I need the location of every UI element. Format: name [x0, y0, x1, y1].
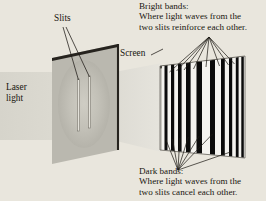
screen-leader-line [151, 49, 163, 55]
double-slit-diagram: Slits Screen Laser light Bright bands: W… [0, 0, 266, 201]
bright-bands-caption: Bright bands: Where light waves from the… [139, 1, 247, 32]
slit-plate [52, 44, 118, 164]
interference-fringes [162, 56, 245, 158]
laser-light-label: Laser light [6, 82, 27, 104]
screen-label: Screen [120, 48, 145, 58]
dark-bands-caption: Dark bands: Where light waves from the t… [139, 166, 241, 197]
slits-label: Slits [54, 13, 71, 23]
